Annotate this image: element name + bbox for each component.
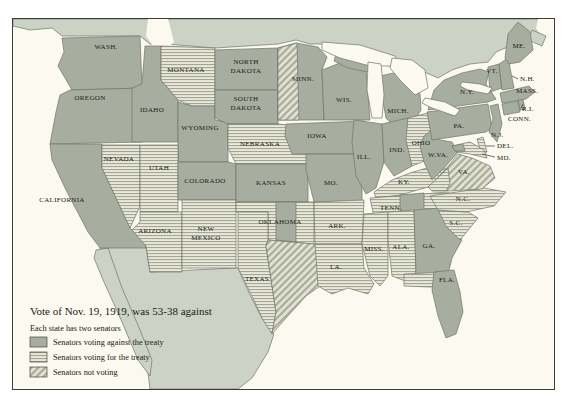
state-new-jersey-label: N.J. <box>491 131 503 139</box>
state-maine-label: ME. <box>512 42 525 50</box>
map-subtitle: Each state has two senators <box>30 324 121 333</box>
state-new-hampshire-label: N.H. <box>520 75 535 83</box>
state-indiana-label: IND. <box>389 146 404 154</box>
state-north-carolina-label: N.C. <box>456 195 470 203</box>
state-north-dakota-label-line2: DAKOTA <box>231 67 262 75</box>
legend-not-voting-label: Senators not voting <box>53 368 118 377</box>
legend-swatch-for <box>30 352 47 362</box>
state-washington-label: WASH. <box>94 43 117 51</box>
state-west-virginia-label: W.VA. <box>428 151 448 159</box>
state-mississippi-label: MISS. <box>364 245 384 253</box>
state-illinois-label: ILL. <box>357 153 371 161</box>
state-oklahoma-label: OKLAHOMA <box>258 218 301 226</box>
state-florida-label: FLA. <box>439 276 455 284</box>
state-michigan-label: MICH. <box>387 107 409 115</box>
state-arizona-label: ARIZONA <box>138 227 172 235</box>
state-missouri <box>306 154 362 202</box>
us-map: WASH. OREGON CALIFORNIA NEVADA IDAHO MON… <box>0 0 567 404</box>
state-kentucky-label: KY. <box>398 178 410 186</box>
state-iowa-label: IOWA <box>307 132 326 140</box>
state-minnesota-label: MINN. <box>292 75 314 83</box>
state-new-mexico-label-line2: MEXICO <box>191 234 220 242</box>
state-south-dakota-label: SOUTH <box>234 95 259 103</box>
legend-against-label: Senators voting against the treaty <box>53 338 164 347</box>
state-texas-label: TEXAS <box>245 275 269 283</box>
state-massachusetts-label: MASS. <box>516 87 538 95</box>
state-arkansas-label: ARK. <box>328 222 346 230</box>
state-tennessee-label: TENN. <box>380 204 402 212</box>
state-wyoming-label: WYOMING <box>181 124 218 132</box>
state-new-mexico-label: NEW <box>198 225 215 233</box>
state-louisiana-label: LA. <box>330 263 342 271</box>
legend-swatch-against <box>30 337 47 347</box>
state-rhode-island-label: R.I. <box>522 105 534 113</box>
state-montana-label: MONTANA <box>167 66 204 74</box>
state-colorado-label: COLORADO <box>184 177 225 185</box>
state-alabama-label: ALA. <box>392 243 409 251</box>
state-south-carolina-label: S.C. <box>449 219 462 227</box>
state-wisconsin <box>322 63 370 120</box>
state-maryland-label: MD. <box>497 154 511 162</box>
state-new-york-label: N.Y. <box>460 88 474 96</box>
map-title: Vote of Nov. 19, 1919, was 53-38 against <box>30 305 212 317</box>
state-utah-label: UTAH <box>149 164 169 172</box>
treaty-vote-map-figure: WASH. OREGON CALIFORNIA NEVADA IDAHO MON… <box>0 0 567 404</box>
state-ohio-label: OHIO <box>412 139 431 147</box>
state-connecticut-label: CONN. <box>508 115 531 123</box>
state-south-dakota-label-line2: DAKOTA <box>231 104 262 112</box>
state-kansas-label: KANSAS <box>256 179 286 187</box>
state-idaho-label: IDAHO <box>140 106 164 114</box>
state-nebraska-label: NEBRASKA <box>240 140 280 148</box>
state-nevada-label: NEVADA <box>104 155 134 163</box>
state-vermont-label: VT. <box>486 67 497 75</box>
state-pennsylvania-label: PA. <box>454 122 465 130</box>
state-virginia-label: VA. <box>458 168 470 176</box>
state-oregon-label: OREGON <box>75 94 106 102</box>
legend-swatch-not-voting <box>30 367 47 377</box>
state-utah <box>140 145 178 212</box>
state-missouri-label: MO. <box>324 179 338 187</box>
state-wisconsin-label: WIS. <box>336 96 352 104</box>
state-california-label: CALIFORNIA <box>39 196 84 204</box>
state-north-dakota-label: NORTH <box>233 58 258 66</box>
state-georgia-label: GA. <box>423 242 436 250</box>
state-delaware-label: DEL. <box>497 142 514 150</box>
legend-for-label: Senators voting for the treaty <box>53 353 151 362</box>
